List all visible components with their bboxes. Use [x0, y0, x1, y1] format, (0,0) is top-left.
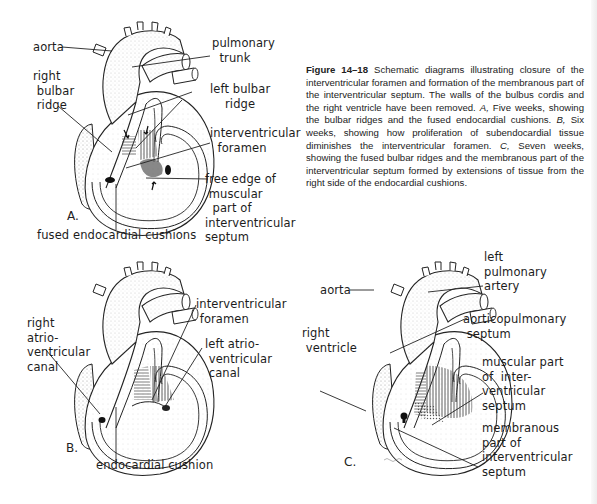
label-aorticopulmonary-septum: aorticopulmonary septum [463, 312, 566, 341]
panel-letter-a: A. [67, 209, 79, 223]
label-right-ventricle: right ventricle [302, 326, 357, 355]
figure-caption: Figure 14–18 Schematic diagrams illustra… [306, 64, 584, 190]
label-muscular-part-septum: muscular part of inter- ventricular sept… [482, 355, 564, 413]
figure-number: Figure 14–18 [306, 64, 368, 75]
panel-letter-c: C. [344, 455, 356, 469]
label-left-pulmonary-artery: left pulmonary artery [484, 250, 547, 294]
label-fused-endocardial-cushions: fused endocardial cushions [37, 228, 196, 243]
label-aorta-c: aorta [320, 283, 351, 298]
caption-c-marker: C, [500, 140, 510, 151]
label-membranous-part-septum: membranous part of interventricular sept… [482, 421, 573, 479]
panel-b-drawing [75, 262, 214, 475]
caption-b-marker: B, [556, 114, 565, 125]
label-interventricular-foramen-b: interventricular foramen [196, 297, 287, 326]
label-right-bulbar-ridge: right bulbar ridge [33, 69, 74, 113]
label-endocardial-cushion: endocardial cushion [96, 458, 213, 473]
label-pulmonary-trunk: pulmonary trunk [212, 36, 275, 65]
label-left-bulbar-ridge: left bulbar ridge [210, 82, 270, 111]
panel-letter-b: B. [66, 441, 78, 455]
label-aorta-a: aorta [33, 40, 64, 55]
label-free-edge-muscular-septum: free edge of muscular part of interventr… [205, 172, 296, 245]
panel-a-drawing [75, 22, 214, 235]
label-interventricular-foramen-a: interventricular foramen [210, 126, 301, 155]
caption-a-marker: A, [480, 102, 489, 113]
label-right-av-canal: right atrio- ventricular canal [27, 316, 90, 374]
label-left-av-canal: left atrio- ventricular canal [205, 337, 272, 381]
